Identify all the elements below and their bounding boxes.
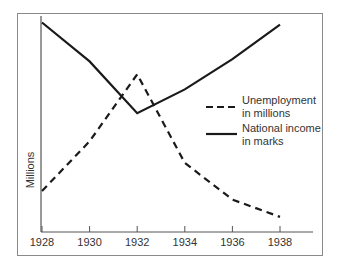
legend-income-line1: National income bbox=[242, 122, 321, 134]
y-axis-title: Millions bbox=[24, 151, 36, 188]
x-tick-label: 1932 bbox=[125, 236, 149, 248]
x-tick-labels: 192819301932193419361938 bbox=[30, 236, 292, 248]
legend-income-line2: in marks bbox=[242, 135, 284, 147]
x-tick-label: 1936 bbox=[220, 236, 244, 248]
legend-unemployment-line2: in millions bbox=[242, 107, 291, 119]
x-tick-label: 1928 bbox=[30, 236, 54, 248]
x-ticks bbox=[42, 226, 280, 232]
legend-unemployment-line1: Unemployment bbox=[242, 94, 316, 106]
x-tick-label: 1934 bbox=[173, 236, 197, 248]
x-tick-label: 1930 bbox=[77, 236, 101, 248]
legend: Unemployment in millions National income… bbox=[206, 94, 321, 147]
line-chart: 192819301932193419361938 Millions Unempl… bbox=[0, 0, 341, 269]
x-tick-label: 1938 bbox=[268, 236, 292, 248]
